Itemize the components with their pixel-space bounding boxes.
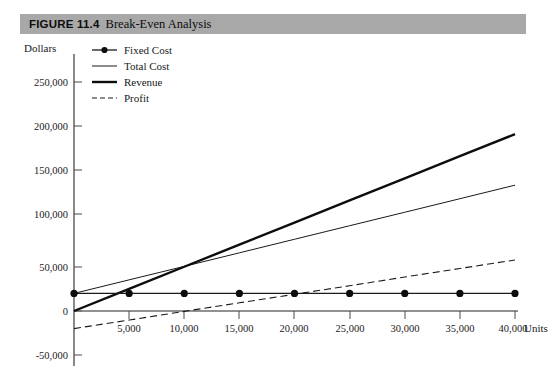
x-tick-label: 15,000 (225, 323, 254, 334)
x-axis-title: Units (524, 322, 548, 334)
data-point-fixed-cost (346, 290, 353, 297)
figure-number-label: FIGURE 11.4 (29, 18, 100, 30)
figure-title-text: Break-Even Analysis (106, 17, 212, 32)
x-axis-tick-labels: 5,000 10,000 15,000 20,000 25,000 30,000… (117, 323, 527, 334)
chart-svg: 250,000 200,000 150,000 100,000 50,000 0… (0, 36, 553, 385)
x-tick-label: 5,000 (117, 323, 141, 334)
data-point-fixed-cost (291, 290, 298, 297)
legend-item-fixed-cost[interactable]: Fixed Cost (92, 44, 172, 56)
data-point-fixed-cost (181, 290, 188, 297)
y-axis-title: Dollars (24, 42, 56, 54)
legend-marker-fixed-cost (101, 47, 107, 53)
y-tick-label: -50,000 (36, 350, 68, 361)
data-point-fixed-cost (70, 290, 77, 297)
y-axis-ticks (74, 82, 82, 355)
data-point-fixed-cost (236, 290, 243, 297)
series-layer (70, 134, 518, 328)
legend-label-fixed-cost: Fixed Cost (124, 44, 172, 56)
break-even-chart: 250,000 200,000 150,000 100,000 50,000 0… (0, 36, 553, 385)
legend-item-profit[interactable]: Profit (92, 92, 149, 104)
x-tick-label: 25,000 (336, 323, 365, 334)
y-tick-label: 200,000 (34, 121, 68, 132)
y-tick-label: 0 (63, 306, 68, 317)
series-line-total-cost (74, 185, 515, 293)
legend-item-total-cost[interactable]: Total Cost (92, 60, 169, 72)
legend-item-revenue[interactable]: Revenue (92, 76, 163, 88)
x-tick-label: 35,000 (446, 323, 475, 334)
x-tick-label: 20,000 (280, 323, 309, 334)
series-line-revenue (74, 134, 515, 311)
chart-legend: Fixed Cost Total Cost Revenue Profit (92, 44, 172, 104)
data-point-fixed-cost (401, 290, 408, 297)
y-tick-label: 150,000 (34, 165, 68, 176)
legend-label-total-cost: Total Cost (124, 60, 169, 72)
x-axis-ticks (129, 311, 515, 319)
x-tick-label: 30,000 (391, 323, 420, 334)
y-axis-tick-labels: 250,000 200,000 150,000 100,000 50,000 0… (34, 77, 68, 361)
y-tick-label: 100,000 (34, 209, 68, 220)
legend-label-revenue: Revenue (124, 76, 163, 88)
y-tick-label: 250,000 (34, 77, 68, 88)
data-point-fixed-cost (456, 290, 463, 297)
data-point-fixed-cost (126, 290, 133, 297)
legend-label-profit: Profit (124, 92, 149, 104)
y-tick-label: 50,000 (39, 262, 68, 273)
x-tick-label: 10,000 (170, 323, 199, 334)
figure-title-bar: FIGURE 11.4 Break-Even Analysis (20, 14, 526, 34)
data-point-fixed-cost (511, 290, 518, 297)
